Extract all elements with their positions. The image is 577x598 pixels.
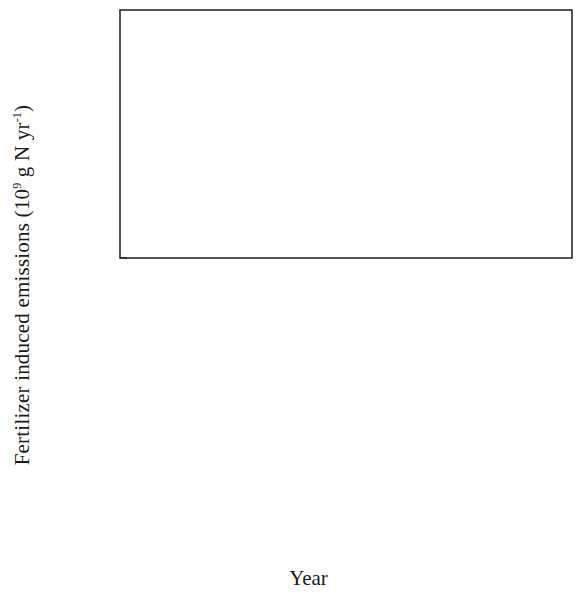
panel-frame-a: [120, 10, 572, 258]
figure-root: Fertilizer induced emissions (109 g N yr…: [0, 0, 577, 598]
x-axis-label-text: Year: [249, 566, 328, 590]
x-axis-label: Year: [0, 566, 577, 591]
plot-canvas: [0, 0, 577, 598]
